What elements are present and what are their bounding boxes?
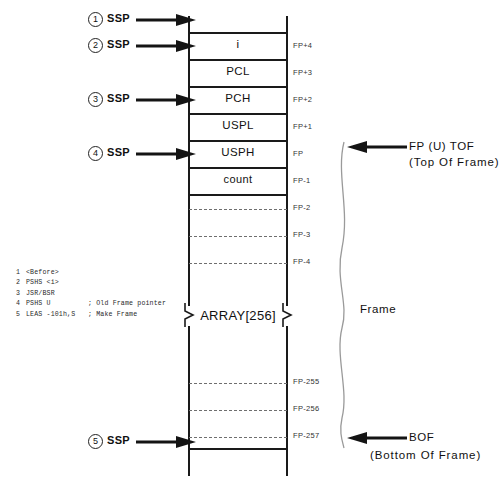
- legend-number: 2: [16, 278, 26, 288]
- arrow-right-icon: [136, 39, 198, 53]
- stack-cell-pch: PCH: [188, 92, 288, 104]
- stack-dashline: [189, 236, 287, 237]
- legend-row: 1<Before>: [16, 268, 166, 278]
- fp-label-plus3: FP+3: [293, 68, 312, 77]
- marker-3-number: 3: [88, 92, 103, 107]
- legend-row: 5LEAS -101h,S; Make Frame: [16, 310, 166, 320]
- arrow-right-icon: [136, 13, 198, 27]
- legend-row: 2PSHS <i>: [16, 278, 166, 288]
- legend-comment: ; Old Frame pointer: [88, 300, 166, 307]
- legend-op: LEAS -101h,S: [26, 310, 88, 320]
- marker-1-label: SSP: [107, 12, 130, 24]
- fp-label-plus2: FP+2: [293, 95, 312, 104]
- stack-left-rail-lower: [188, 326, 190, 476]
- stack-rowline-bottom: [188, 448, 288, 450]
- marker-1-number: 1: [88, 12, 103, 27]
- stack-rowline: [188, 194, 288, 196]
- marker-2-label: SSP: [107, 38, 130, 50]
- stack-dashline: [189, 437, 287, 438]
- legend-row: 4PSHS U; Old Frame pointer: [16, 299, 166, 309]
- fp-label-minus257: FP-257: [293, 431, 319, 440]
- fp-label-minus256: FP-256: [293, 404, 319, 413]
- stack-rowline: [188, 59, 288, 61]
- stack-cell-count: count: [188, 173, 288, 185]
- fp-label-minus1: FP-1: [293, 176, 310, 185]
- legend-op: PSHS U: [26, 299, 88, 309]
- stack-cell-i: i: [188, 38, 288, 50]
- bof-label-line2: (Bottom Of Frame): [370, 449, 481, 461]
- bof-label-line1: BOF: [409, 431, 434, 443]
- arrow-left-tof-icon: [345, 140, 407, 154]
- marker-4-number: 4: [88, 146, 103, 161]
- stack-dashline: [189, 263, 287, 264]
- legend-op: JSR/BSR: [26, 289, 88, 299]
- arrow-right-icon: [136, 435, 198, 449]
- stack-right-rail-lower: [286, 326, 288, 476]
- marker-2-number: 2: [88, 38, 103, 53]
- stack-rowline: [188, 140, 288, 142]
- tof-label-line1: FP (U) TOF: [409, 140, 474, 152]
- marker-5-label: SSP: [107, 434, 130, 446]
- marker-4-label: SSP: [107, 146, 130, 158]
- stack-dashline: [189, 209, 287, 210]
- legend-number: 3: [16, 289, 26, 299]
- stack-rowline: [188, 86, 288, 88]
- fp-label-plus4: FP+4: [293, 41, 312, 50]
- stack-cell-usph: USPH: [188, 146, 288, 158]
- fp-label-plus1: FP+1: [293, 122, 312, 131]
- stack-cell-pcl: PCL: [188, 65, 288, 77]
- legend-number: 4: [16, 299, 26, 309]
- fp-label-minus2: FP-2: [293, 203, 310, 212]
- legend-row: 3JSR/BSR: [16, 289, 166, 299]
- legend-number: 5: [16, 310, 26, 320]
- fp-label-minus255: FP-255: [293, 377, 319, 386]
- fp-label-minus3: FP-3: [293, 230, 310, 239]
- legend-op: PSHS <i>: [26, 278, 88, 288]
- stack-rowline: [188, 167, 288, 169]
- arrow-left-bof-icon: [345, 431, 407, 445]
- arrow-right-icon: [136, 93, 198, 107]
- stack-rowline: [188, 32, 288, 34]
- legend-comment: ; Make Frame: [88, 311, 137, 318]
- marker-5-number: 5: [88, 434, 103, 449]
- tof-label-line2: (Top Of Frame): [409, 156, 500, 168]
- marker-3-label: SSP: [107, 92, 130, 104]
- fp-label-minus4: FP-4: [293, 257, 310, 266]
- code-legend: 1<Before> 2PSHS <i> 3JSR/BSR 4PSHS U; Ol…: [16, 268, 166, 320]
- arrow-right-icon: [136, 147, 198, 161]
- fp-label-fp: FP: [293, 149, 303, 158]
- stack-cell-array: ARRAY[256]: [186, 308, 290, 323]
- stack-rowline: [188, 113, 288, 115]
- stack-dashline: [189, 410, 287, 411]
- legend-number: 1: [16, 268, 26, 278]
- frame-brace: [330, 140, 356, 450]
- stack-cell-uspl: USPL: [188, 119, 288, 131]
- frame-label: Frame: [360, 303, 396, 315]
- stack-dashline: [189, 383, 287, 384]
- legend-op: <Before>: [26, 268, 88, 278]
